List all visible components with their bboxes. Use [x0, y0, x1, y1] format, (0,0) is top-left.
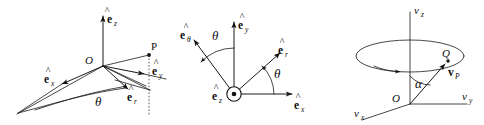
label-v-z: v z: [414, 4, 424, 19]
label-v-P-vector: v P: [448, 66, 460, 81]
theta-arc: [18, 88, 126, 113]
svg-text:e: e: [44, 73, 49, 85]
svg-text:x: x: [300, 105, 305, 114]
label-theta: θ: [95, 94, 102, 109]
label-alpha: α: [415, 76, 423, 91]
svg-text:y: y: [244, 25, 249, 34]
svg-text:θ: θ: [187, 35, 191, 44]
svg-text:e: e: [212, 90, 217, 102]
e-z-out-of-page-dot: [232, 92, 237, 97]
svg-text:z: z: [420, 10, 424, 19]
svg-text:y: y: [158, 71, 163, 80]
label-e-hat-x: ^ e x: [294, 91, 305, 114]
theta-arc-left: [201, 48, 234, 62]
svg-text:v: v: [462, 90, 467, 102]
axis-e-x-line: [62, 66, 103, 84]
point-P-dot: [147, 53, 151, 57]
label-e-hat-y: ^ e y: [152, 57, 163, 80]
svg-text:x: x: [50, 79, 55, 88]
svg-text:e: e: [294, 99, 299, 111]
axis-v-x-line: [362, 104, 410, 120]
svg-text:e: e: [278, 44, 283, 56]
theta-arc-right: [262, 66, 274, 94]
svg-text:e: e: [107, 13, 112, 25]
label-e-hat-theta: ^ e θ: [180, 21, 191, 44]
panel-polar-plane: ^ e θ ^ e y ^ e r ^ e x ^ e z θ θ: [172, 0, 312, 125]
label-e-hat-r: ^ e r: [127, 83, 137, 106]
axis-e-y-line: [103, 66, 144, 74]
label-e-hat-z: ^ e z: [105, 5, 117, 28]
label-origin-O: O: [392, 92, 400, 104]
svg-text:P: P: [454, 72, 460, 81]
label-origin-O: O: [85, 54, 93, 66]
figure-root: ^ e z ^ e x ^ e y ^ e r O P θ: [0, 0, 484, 125]
svg-text:v: v: [354, 107, 359, 119]
label-e-hat-z: ^ e z: [212, 82, 222, 105]
axis-e-r-line: [103, 66, 128, 89]
svg-text:e: e: [238, 19, 243, 31]
svg-text:z: z: [218, 96, 222, 105]
label-v-x: v x: [354, 107, 365, 122]
svg-text:r: r: [134, 97, 137, 106]
ground-ray-line: [17, 66, 103, 114]
svg-text:x: x: [360, 113, 365, 122]
label-e-hat-y: ^ e y: [238, 11, 249, 34]
svg-text:e: e: [127, 91, 132, 103]
label-point-P: P: [151, 40, 157, 52]
panel-spherical-3d: ^ e z ^ e x ^ e y ^ e r O P θ: [0, 0, 172, 125]
label-e-hat-x: ^ e x: [44, 65, 55, 88]
label-v-y: v y: [462, 90, 473, 105]
label-theta-left: θ: [212, 28, 219, 43]
svg-text:v: v: [448, 66, 454, 78]
svg-text:e: e: [152, 65, 157, 77]
label-e-hat-r: ^ e r: [278, 36, 288, 59]
panel-velocity-cone: v z v y v x v P Q O α: [312, 0, 484, 125]
point-Q-dot: [446, 59, 449, 62]
svg-text:z: z: [113, 19, 117, 28]
svg-text:v: v: [414, 4, 419, 16]
label-theta-right: θ: [274, 66, 281, 81]
svg-text:e: e: [180, 29, 185, 41]
svg-text:y: y: [468, 96, 473, 105]
label-point-Q: Q: [442, 47, 450, 59]
svg-text:r: r: [285, 50, 288, 59]
line-O-to-P: [103, 55, 149, 66]
